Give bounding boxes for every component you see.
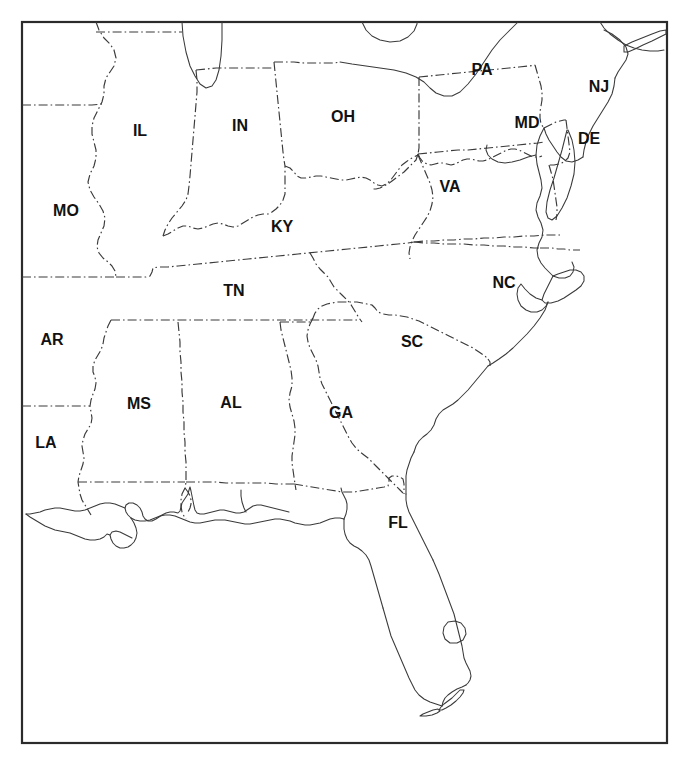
border-tennessee-north-carolina	[310, 253, 362, 322]
border-kentucky-virginia-west-virginia	[409, 155, 433, 259]
florida-southwest-coast	[383, 608, 442, 706]
potomac-river-mouth	[486, 145, 536, 163]
map-frame	[22, 22, 667, 743]
border-louisiana-mississippi-coast	[185, 488, 191, 512]
lake-erie-shoreline	[362, 22, 417, 42]
state-label-ky: KY	[271, 218, 294, 235]
lake-okeechobee	[443, 621, 466, 643]
border-west-virginia-virginia	[372, 154, 418, 189]
state-label-sc: SC	[401, 333, 424, 350]
coastlines-and-water	[26, 22, 666, 716]
state-labels: IL IN OH PA NJ MD DE MO KY VA TN NC AR S…	[35, 61, 609, 531]
state-label-il: IL	[133, 122, 147, 139]
border-tennessee-virginia-extension	[414, 235, 560, 242]
lake-michigan-southern-tip	[182, 22, 222, 88]
alabama-mississippi-gulf-coast	[125, 487, 289, 521]
state-label-al: AL	[220, 394, 242, 411]
state-label-mo: MO	[53, 202, 79, 219]
border-virginia-north-carolina	[414, 242, 540, 248]
border-indiana-michigan-north	[196, 68, 274, 70]
border-mississippi-arkansas-louisiana-river	[78, 320, 111, 515]
georgia-atlantic-coast	[406, 494, 433, 560]
border-illinois-indiana	[163, 70, 197, 236]
state-label-de: DE	[578, 130, 601, 147]
state-label-ga: GA	[329, 404, 353, 421]
border-indiana-kentucky-ohio-river	[163, 166, 285, 236]
border-pennsylvania-maryland-mason-dixon	[418, 142, 544, 154]
state-label-la: LA	[35, 434, 57, 451]
border-mississippi-alabama	[178, 322, 186, 519]
border-virginia-eastern-shore	[540, 248, 580, 250]
border-indiana-ohio	[274, 62, 285, 166]
chesapeake-bay-west-shore	[536, 128, 553, 276]
state-label-md: MD	[515, 114, 540, 131]
border-kentucky-tennessee	[116, 242, 414, 277]
state-label-pa: PA	[471, 61, 492, 78]
state-label-tn: TN	[223, 282, 244, 299]
mississippi-river-delta	[110, 518, 137, 548]
louisiana-gulf-coast	[26, 503, 125, 514]
atlantic-coast-new-england	[600, 22, 664, 51]
long-island	[624, 30, 666, 52]
florida-atlantic-coast	[433, 560, 471, 685]
long-island-sound-mainland	[604, 30, 628, 78]
border-alabama-georgia	[280, 322, 296, 490]
state-label-oh: OH	[331, 108, 355, 125]
state-label-nj: NJ	[589, 78, 609, 95]
border-missouri-illinois-north	[22, 104, 102, 105]
state-label-ar: AR	[40, 331, 64, 348]
lake-erie-south-shore	[340, 22, 518, 96]
state-label-nc: NC	[492, 274, 516, 291]
florida-gulf-coast	[344, 519, 383, 608]
border-ohio-kentucky-river	[285, 155, 418, 186]
state-label-fl: FL	[388, 514, 408, 531]
map-canvas: IL IN OH PA NJ MD DE MO KY VA TN NC AR S…	[0, 0, 689, 759]
delmarva-peninsula-outline	[546, 130, 575, 220]
border-ohio-michigan-north	[274, 62, 340, 63]
louisiana-southern-marshes	[26, 514, 110, 540]
pamlico-albemarle-sound-mainland	[517, 284, 548, 312]
gulf-coast-florida-panhandle	[341, 488, 347, 519]
florida-big-bend-coast	[131, 515, 344, 525]
mobile-bay	[241, 490, 246, 512]
north-carolina-outer-banks	[542, 270, 584, 303]
state-label-va: VA	[439, 178, 460, 195]
border-west-virginia-maryland	[418, 149, 542, 165]
outline-map-svg: IL IN OH PA NJ MD DE MO KY VA TN NC AR S…	[0, 0, 689, 759]
border-ohio-pennsylvania	[418, 77, 419, 154]
state-borders	[22, 22, 580, 519]
florida-keys-lower	[420, 709, 440, 716]
border-illinois-west	[88, 22, 116, 277]
border-georgia-south-carolina-savannah	[307, 318, 403, 493]
border-florida-georgia	[294, 476, 404, 494]
south-carolina-atlantic-coast	[414, 366, 488, 452]
state-label-ms: MS	[127, 395, 151, 412]
savannah-river-mouth	[406, 452, 414, 494]
border-delaware-new-jersey	[544, 120, 566, 128]
state-label-in: IN	[232, 117, 248, 134]
border-alabama-florida-panhandle	[186, 482, 294, 484]
